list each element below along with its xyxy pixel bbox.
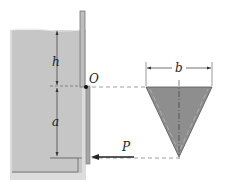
hinge-point-O xyxy=(84,85,88,89)
label-O: O xyxy=(89,72,99,86)
water xyxy=(12,30,82,173)
label-b: b xyxy=(175,61,183,75)
label-h: h xyxy=(52,55,60,69)
triangle-section: b xyxy=(146,61,212,159)
gate-lower xyxy=(86,86,90,164)
force-P: P xyxy=(91,140,134,160)
fluid-gate-diagram: h a O P b xyxy=(0,0,226,186)
label-a: a xyxy=(52,115,59,129)
tank xyxy=(10,29,86,180)
gate-upper xyxy=(80,11,85,87)
label-P: P xyxy=(121,140,131,154)
